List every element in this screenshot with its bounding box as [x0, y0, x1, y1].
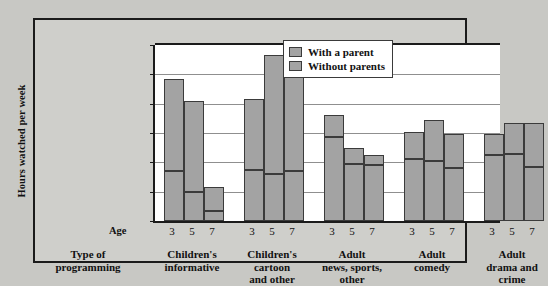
- age-tick-label: 3: [162, 226, 182, 237]
- bar-segment-with-a-parent: [344, 164, 364, 221]
- bar-segment-with-a-parent: [484, 155, 504, 221]
- category-caption: Children'scartoonand other: [229, 248, 315, 286]
- category-caption: Adultnews, sports,other: [309, 248, 395, 286]
- y-axis-tick-mark: [150, 162, 154, 163]
- age-tick-label: 5: [502, 226, 522, 237]
- legend-swatch-icon: [289, 47, 302, 57]
- stacked-bar: [404, 132, 424, 221]
- age-tick-label: 7: [522, 226, 542, 237]
- y-axis-tick-mark: [150, 74, 154, 75]
- legend-label: With a parent: [308, 46, 374, 58]
- bar-segment-with-a-parent: [264, 174, 284, 221]
- y-axis-tick-mark: [150, 104, 154, 105]
- stacked-bar: [424, 120, 444, 221]
- stacked-bar: [444, 134, 464, 221]
- stacked-bar: [164, 79, 184, 221]
- bar-segment-with-a-parent: [284, 171, 304, 221]
- bar-segment-without-parents: [184, 101, 204, 192]
- bar-segment-with-a-parent: [364, 165, 384, 221]
- bar-segment-without-parents: [164, 79, 184, 171]
- age-tick-label: 5: [342, 226, 362, 237]
- bar-segment-with-a-parent: [444, 168, 464, 221]
- legend-item-without-parents: Without parents: [289, 59, 385, 73]
- category-caption: Children'sinformative: [149, 248, 235, 273]
- age-tick-label: 7: [282, 226, 302, 237]
- category-caption-line: cartoon: [254, 261, 290, 273]
- age-axis-caption: Age: [109, 226, 127, 237]
- category-caption-line: news, sports,: [322, 261, 382, 273]
- stacked-bar: [344, 148, 364, 221]
- bar-segment-with-a-parent: [424, 161, 444, 221]
- age-tick-label: 7: [202, 226, 222, 237]
- category-caption-line: other: [339, 273, 364, 285]
- stacked-bar: [244, 99, 264, 221]
- stacked-bar: [204, 187, 224, 221]
- category-caption-line: crime: [499, 273, 526, 285]
- chart-frame: Hours watched per week Age Type of progr…: [33, 18, 467, 263]
- type-caption-line-1: Type of: [71, 248, 106, 260]
- bar-segment-without-parents: [484, 134, 504, 155]
- bar-segment-without-parents: [424, 120, 444, 161]
- age-tick-label: 3: [482, 226, 502, 237]
- y-axis-tick-mark: [150, 192, 154, 193]
- category-caption-line: Children's: [247, 248, 296, 260]
- category-caption: Adultdrama andcrime: [469, 248, 548, 286]
- legend-swatch-icon: [289, 61, 302, 71]
- age-tick-label: 3: [402, 226, 422, 237]
- category-caption-line: Adult: [499, 248, 526, 260]
- category-caption-line: Children's: [167, 248, 216, 260]
- y-axis-tick-mark: [150, 133, 154, 134]
- bar-segment-without-parents: [284, 66, 304, 172]
- category-caption: Adultcomedy: [389, 248, 475, 273]
- age-tick-label: 5: [182, 226, 202, 237]
- bar-segment-without-parents: [204, 187, 224, 210]
- bar-segment-with-a-parent: [504, 154, 524, 221]
- stacked-bar: [524, 123, 544, 221]
- bar-segment-without-parents: [344, 148, 364, 164]
- chart-legend: With a parent Without parents: [283, 40, 393, 78]
- stacked-bar: [324, 115, 344, 221]
- bar-segment-with-a-parent: [184, 192, 204, 221]
- bar-segment-without-parents: [264, 55, 284, 174]
- category-caption-line: informative: [165, 261, 220, 273]
- gridline: [155, 104, 500, 105]
- category-caption-line: Adult: [419, 248, 446, 260]
- type-caption-line-2: programming: [55, 261, 120, 273]
- bar-segment-without-parents: [364, 155, 384, 165]
- age-tick-label: 5: [262, 226, 282, 237]
- category-caption-line: comedy: [414, 261, 450, 273]
- category-caption-line: drama and: [486, 261, 538, 273]
- bar-segment-without-parents: [404, 132, 424, 160]
- stacked-bar: [284, 66, 304, 221]
- age-tick-label: 3: [322, 226, 342, 237]
- y-axis-tick-mark: [150, 45, 154, 46]
- y-axis-tick-mark: [150, 221, 154, 222]
- age-tick-label: 7: [362, 226, 382, 237]
- bar-segment-with-a-parent: [164, 171, 184, 221]
- type-of-programming-caption: Type of programming: [43, 248, 133, 273]
- age-tick-label: 3: [242, 226, 262, 237]
- legend-item-with-a-parent: With a parent: [289, 45, 385, 59]
- stacked-bar: [184, 101, 204, 221]
- bar-segment-with-a-parent: [244, 170, 264, 221]
- stacked-bar: [504, 123, 524, 221]
- age-tick-label: 7: [442, 226, 462, 237]
- bar-segment-without-parents: [504, 123, 524, 154]
- bar-segment-without-parents: [524, 123, 544, 167]
- category-caption-line: and other: [249, 273, 295, 285]
- bar-segment-without-parents: [244, 99, 264, 169]
- bar-segment-with-a-parent: [204, 211, 224, 221]
- stacked-bar: [484, 134, 504, 221]
- legend-label: Without parents: [308, 60, 385, 72]
- bar-segment-with-a-parent: [324, 137, 344, 221]
- bar-segment-with-a-parent: [524, 167, 544, 221]
- age-tick-label: 5: [422, 226, 442, 237]
- stacked-bar: [264, 55, 284, 221]
- bar-segment-without-parents: [444, 134, 464, 168]
- bar-segment-with-a-parent: [404, 159, 424, 221]
- y-axis-title: Hours watched per week: [16, 84, 27, 197]
- category-caption-line: Adult: [339, 248, 366, 260]
- stacked-bar: [364, 155, 384, 221]
- bar-segment-without-parents: [324, 115, 344, 137]
